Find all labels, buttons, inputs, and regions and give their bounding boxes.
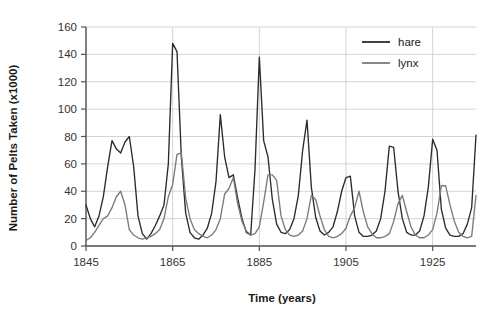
y-tick-label-80: 80 xyxy=(64,131,77,143)
y-tick-label-0: 0 xyxy=(71,240,77,252)
y-axis-title: Number of Pelts Taken (x1000) xyxy=(7,65,19,232)
legend-label-hare: hare xyxy=(398,36,421,48)
x-tick-label-1885: 1885 xyxy=(247,256,273,268)
y-tick-label-60: 60 xyxy=(64,158,77,170)
y-tick-label-100: 100 xyxy=(58,103,77,115)
y-tick-label-20: 20 xyxy=(64,213,77,225)
x-tick-label-1925: 1925 xyxy=(420,256,446,268)
hare-lynx-line-chart: 020406080100120140160 184518651885190519… xyxy=(0,0,502,320)
y-tick-label-140: 140 xyxy=(58,48,77,60)
x-tick-label-1845: 1845 xyxy=(73,256,99,268)
x-axis-title: Time (years) xyxy=(248,292,316,304)
legend-label-lynx: lynx xyxy=(398,57,419,69)
x-tick-label-1905: 1905 xyxy=(333,256,359,268)
y-tick-label-40: 40 xyxy=(64,185,77,197)
y-tick-label-160: 160 xyxy=(58,21,77,33)
y-tick-label-120: 120 xyxy=(58,76,77,88)
x-tick-label-1865: 1865 xyxy=(160,256,186,268)
